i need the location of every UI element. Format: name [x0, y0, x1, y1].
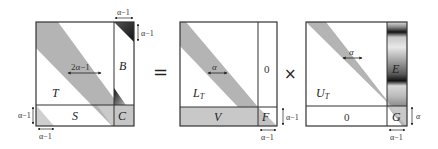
bottom-left-width-label: α−1 [39, 132, 52, 141]
band-width-label: 2α−1 [71, 62, 90, 72]
block-E-label: E [391, 62, 400, 76]
block-U-label: UT [316, 86, 330, 101]
right-matrix: UT E 0 G α α α−1 [306, 22, 421, 142]
block-F-label: F [261, 110, 270, 124]
top-right-height-label: α−1 [141, 29, 154, 38]
G-width-label: α−1 [390, 133, 403, 142]
block-B-triangle [114, 88, 126, 105]
block-zero-label: 0 [264, 63, 270, 75]
times-operator: × [284, 65, 297, 83]
middle-band-width-label: α [212, 62, 217, 72]
block-zero-label-right: 0 [344, 111, 350, 123]
block-G-label: G [392, 110, 401, 124]
matrix-factorization-diagram: T B S C 2α−1 α−1 α−1 α−1 α−1 = LT 0 V [0, 0, 438, 149]
block-B-label: B [119, 59, 127, 73]
left-matrix: T B S C 2α−1 α−1 α−1 α−1 α−1 [18, 8, 154, 141]
bottom-left-height-label: α−1 [18, 111, 31, 120]
G-height-label: α [416, 112, 421, 121]
middle-matrix: LT 0 V F α α−1 α−1 [180, 22, 299, 142]
bottom-left-triangle [36, 105, 54, 126]
block-S-label: S [72, 109, 78, 123]
left-band-lower [97, 105, 114, 126]
block-C-label: C [118, 109, 127, 123]
top-right-width-label: α−1 [117, 8, 130, 17]
right-band-width-label: α [349, 47, 354, 57]
F-width-label: α−1 [261, 133, 274, 142]
block-T-label: T [52, 86, 60, 100]
F-height-label: α−1 [286, 113, 299, 122]
top-right-triangle [114, 22, 134, 42]
block-L-subscript: T [200, 92, 205, 101]
equals-operator: = [153, 61, 168, 82]
middle-diagonal-band [180, 22, 258, 107]
block-U-subscript: T [325, 92, 330, 101]
block-L-label: LT [192, 86, 205, 101]
